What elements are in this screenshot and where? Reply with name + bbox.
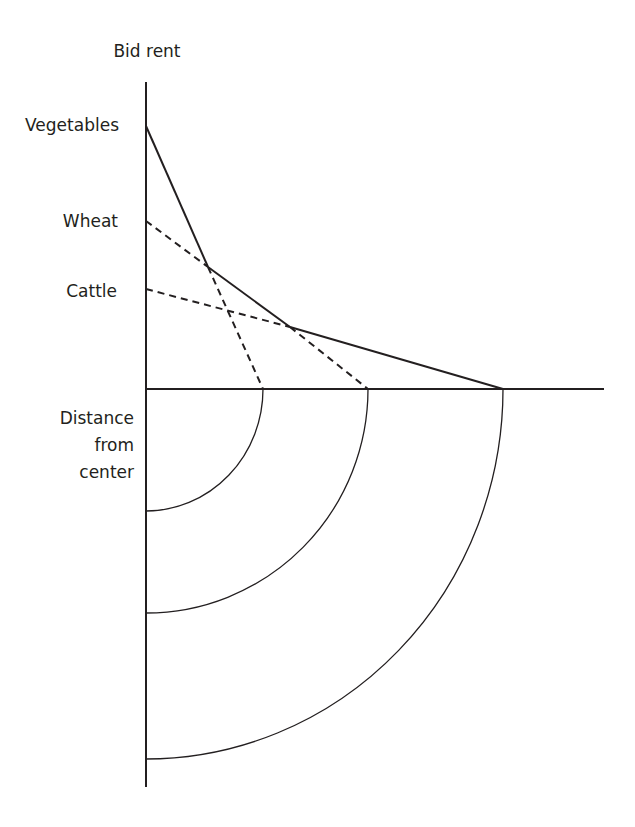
ring-wheat xyxy=(146,389,368,613)
label-wheat: Wheat xyxy=(63,211,118,231)
wheat-curve-dashed-end xyxy=(290,327,368,389)
vegetables-curve-solid xyxy=(146,126,208,267)
label-vegetables: Vegetables xyxy=(25,115,119,135)
bid-rent-diagram: Bid rent Vegetables Wheat Cattle Distanc… xyxy=(0,0,635,827)
ring-vegetables xyxy=(146,389,263,511)
x-axis-label-line3: center xyxy=(79,462,134,482)
x-axis-label-line1: Distance xyxy=(60,408,134,428)
cattle-curve-solid xyxy=(290,327,503,389)
cattle-curve-dashed xyxy=(146,289,290,327)
ring-cattle xyxy=(146,389,503,759)
y-axis-label: Bid rent xyxy=(113,41,180,61)
x-axis-label-line2: from xyxy=(94,435,134,455)
wheat-curve-solid xyxy=(208,267,290,327)
vegetables-curve-dashed xyxy=(208,267,263,389)
label-cattle: Cattle xyxy=(66,281,117,301)
